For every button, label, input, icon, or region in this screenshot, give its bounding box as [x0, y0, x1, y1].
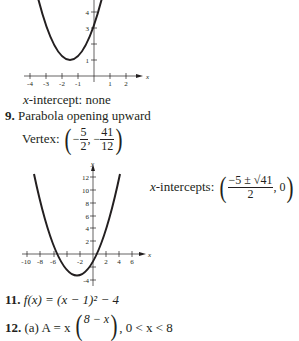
x-tick-label: -3 [43, 80, 49, 88]
x-tick-label: -1 [75, 80, 81, 88]
y-tick-label: -4 [83, 277, 89, 285]
item-number: 9. [5, 108, 15, 123]
x-tick-label: -2 [59, 80, 65, 88]
bottom-parabola-graph: -10 -8 -6 -2 2 4 6 12 10 8 6 4 2 -4 x y [0, 160, 160, 290]
x-intercept-none-text: -intercept: none [29, 92, 111, 107]
y-tick-label: 4 [86, 225, 90, 233]
x-intercept-y-value: 0 [279, 180, 285, 195]
x-intercepts-label: -intercepts: [156, 179, 214, 195]
y-tick-label: 10 [82, 187, 90, 195]
x-tick-label: -8 [37, 258, 43, 266]
item-number: 12. [5, 320, 21, 336]
right-paren: ) [116, 124, 123, 154]
vertex-label: Vertex: [22, 131, 60, 147]
left-paren: ( [75, 310, 82, 340]
x-tick-label: 2 [104, 258, 108, 266]
y-tick-label: 3 [86, 25, 90, 33]
y-tick-label: 8 [86, 200, 90, 208]
y-tick-label: 4 [86, 9, 90, 17]
x-tick-label: 2 [124, 80, 128, 88]
top-parabola-graph: -4 -3 -2 -1 1 2 1 3 4 x [0, 0, 160, 90]
item-text: f(x) = (x − 1)² − 4 [24, 292, 119, 307]
item-11: 11. f(x) = (x − 1)² − 4 [5, 292, 119, 308]
parabola-curve [38, 0, 102, 60]
item-text: (a) A = x [25, 320, 71, 336]
item-tail: , 0 < x < 8 [119, 320, 173, 336]
vertex-y-fraction: 4112 [100, 126, 114, 153]
fraction-numerator: 8 − x [84, 312, 109, 327]
x-axis-arrow-icon [139, 252, 146, 256]
y-tick-label: 12 [82, 174, 90, 182]
x-tick-label: -2 [77, 258, 83, 266]
item-number: 11. [5, 292, 21, 307]
left-paren: ( [219, 172, 226, 202]
y-tick-label: 2 [86, 238, 90, 246]
right-paren: ) [287, 172, 294, 202]
item-12: 12. (a) A = x (8 − x), 0 < x < 8 [5, 312, 173, 340]
vertex-line: Vertex: ( − 52, − 4112 ) [22, 122, 124, 156]
x-axis-arrow-icon [136, 74, 143, 78]
y-tick-label: 1 [86, 57, 90, 65]
y-axis-label: y [90, 160, 95, 168]
x-axis-label: x [145, 73, 150, 81]
x-intercepts-line: x-intercepts: ( −5 ± √412, 0 ) [150, 170, 295, 204]
y-tick-label: 6 [86, 213, 90, 221]
x-tick-label: 6 [130, 258, 134, 266]
x-intercepts-fraction: −5 ± √412 [228, 174, 274, 201]
x-tick-label: 1 [108, 80, 112, 88]
x-axis-label: x [147, 251, 152, 259]
right-paren: ) [111, 310, 118, 340]
x-tick-label: -10 [21, 258, 31, 266]
left-paren: ( [64, 124, 71, 154]
x-tick-label: -6 [50, 258, 56, 266]
vertex-x-fraction: 52 [80, 126, 88, 153]
item-text: Parabola opening upward [18, 108, 151, 123]
x-tick-label: 4 [117, 258, 121, 266]
x-tick-label: -4 [27, 80, 33, 88]
x-intercept-none-line: x-intercept: none [23, 92, 111, 108]
